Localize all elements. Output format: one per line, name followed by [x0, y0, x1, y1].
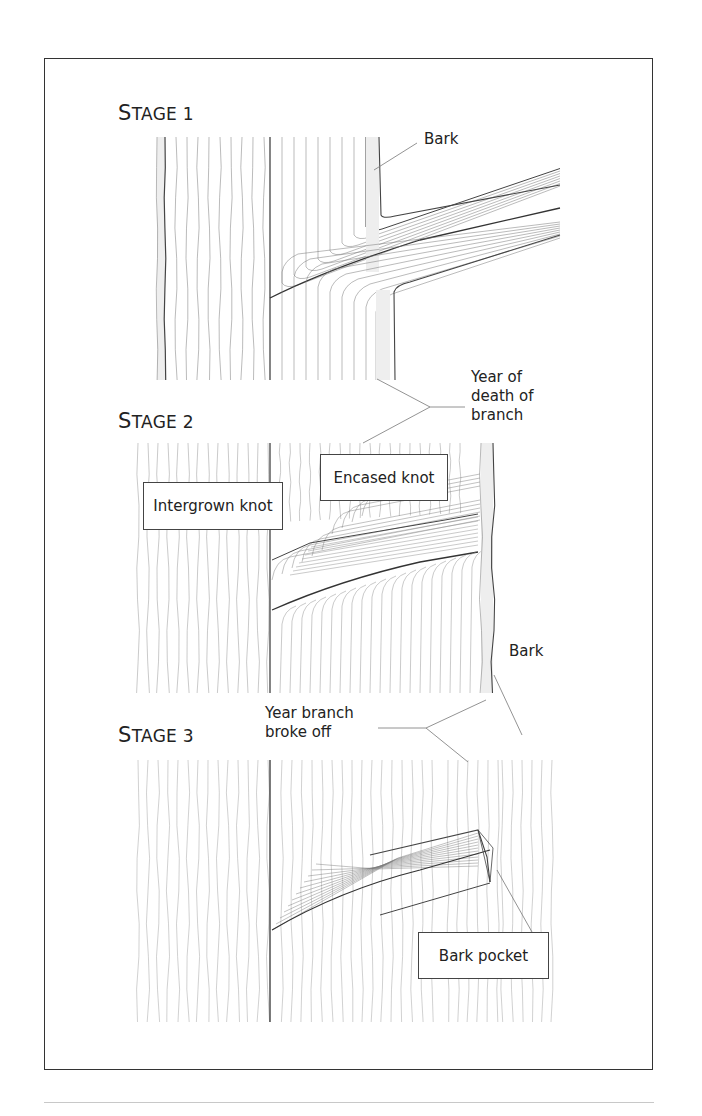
- year-of-death-line-2: death of: [471, 387, 534, 406]
- encased-knot-label: Encased knot: [320, 454, 448, 501]
- stage-1-title: STAGE 1: [118, 101, 194, 125]
- year-broke-off-label: Year branch broke off: [265, 704, 354, 742]
- year-broke-off-line-1: Year branch: [265, 704, 354, 723]
- year-of-death-line-1: Year of: [471, 368, 534, 387]
- bark-pocket-label: Bark pocket: [418, 932, 549, 979]
- year-of-death-line-3: branch: [471, 406, 534, 425]
- stage-3-title: STAGE 3: [118, 723, 194, 747]
- wood-grain-illustration: [0, 0, 702, 1116]
- stage-1-drawing: [156, 137, 560, 380]
- intergrown-knot-label: Intergrown knot: [143, 482, 283, 530]
- year-broke-off-line-2: broke off: [265, 723, 354, 742]
- bark-label-stage-1: Bark: [424, 130, 458, 149]
- year-of-death-label: Year of death of branch: [471, 368, 534, 425]
- leader-lines: [363, 143, 532, 932]
- stage-2-title: STAGE 2: [118, 409, 194, 433]
- stage-3-drawing: [137, 760, 553, 1022]
- footer-rule: [44, 1102, 654, 1103]
- bark-label-stage-2: Bark: [509, 642, 543, 661]
